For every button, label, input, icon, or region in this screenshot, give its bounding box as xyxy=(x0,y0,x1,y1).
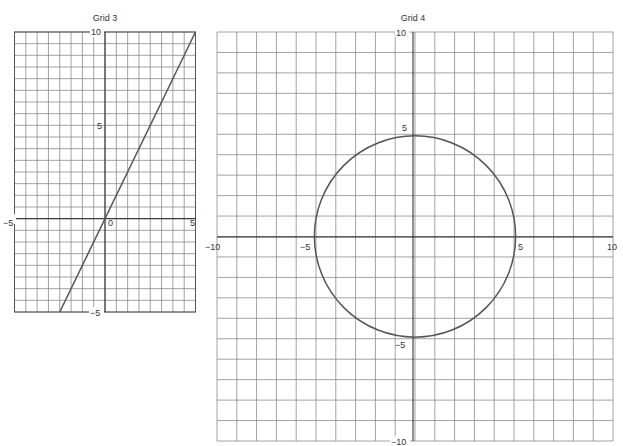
grid4-chart: Grid 4 −10 −5 5 10 10 5 −5 −10 xyxy=(205,13,617,446)
grid4-ytick-neg10: −10 xyxy=(391,437,406,446)
grid4-xtick-neg10: −10 xyxy=(205,242,220,252)
grid4-ytick-10: 10 xyxy=(396,28,406,38)
grid4-ytick-5: 5 xyxy=(402,123,407,133)
grid3-chart: Grid 3 −5 0 5 10 5 −5 xyxy=(2,13,196,318)
grid4-xtick-10: 10 xyxy=(607,242,617,252)
grid3-ytick-5: 5 xyxy=(97,121,102,131)
grid3-xtick-0: 0 xyxy=(108,218,113,228)
grid4-ytick-neg5: −5 xyxy=(395,340,405,350)
grid4-xtick-5: 5 xyxy=(518,242,523,252)
grid3-ytick-neg5: −5 xyxy=(90,308,100,318)
grid3-title: Grid 3 xyxy=(93,13,118,23)
grid4-title: Grid 4 xyxy=(401,13,426,23)
grid3-xtick-neg5: −5 xyxy=(3,218,13,228)
grid3-ytick-10: 10 xyxy=(91,27,101,37)
charts-canvas: Grid 3 −5 0 5 10 5 −5 Grid 4 −10 −5 5 10… xyxy=(0,0,623,446)
grid4-xtick-neg5: −5 xyxy=(300,242,310,252)
grid3-xtick-5: 5 xyxy=(190,218,195,228)
